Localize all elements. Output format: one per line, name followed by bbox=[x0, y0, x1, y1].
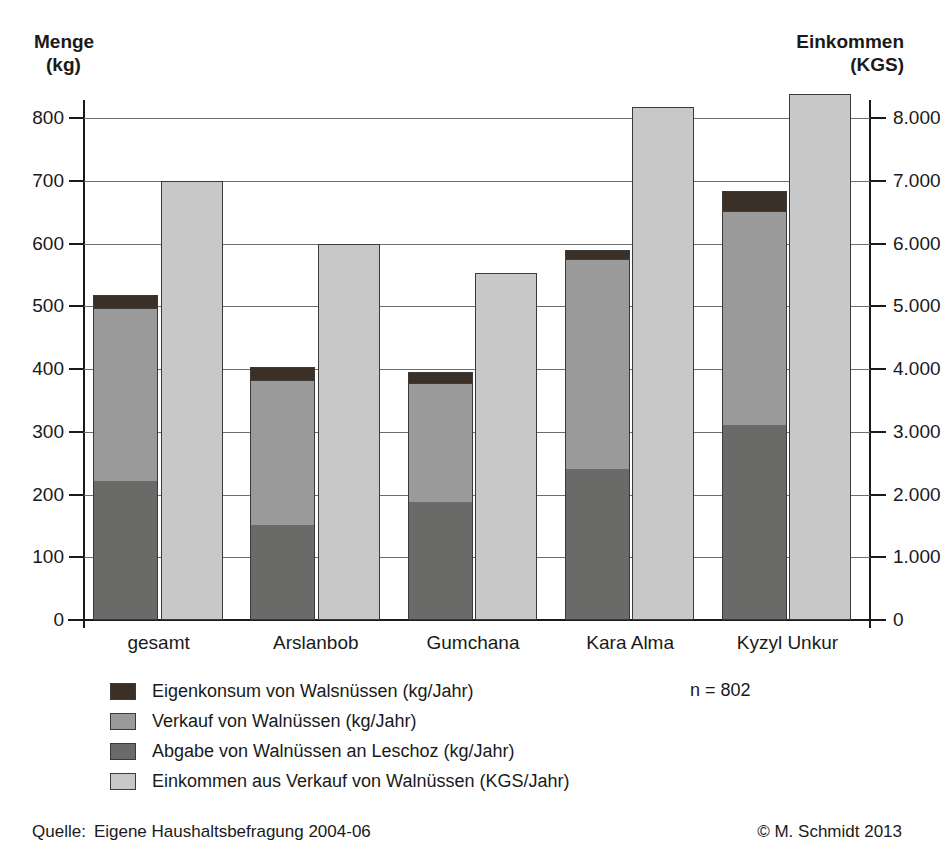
legend-label: Verkauf von Walnüssen (kg/Jahr) bbox=[152, 710, 416, 732]
y-axis-right-tick bbox=[871, 556, 886, 558]
legend-swatch bbox=[110, 713, 136, 730]
y-axis-right-tick-label: 5.000 bbox=[893, 296, 941, 315]
y-axis-right-tick-label: 4.000 bbox=[893, 359, 941, 378]
bar-segment[interactable] bbox=[722, 211, 787, 425]
bar-group bbox=[84, 118, 870, 620]
plot-area bbox=[84, 118, 870, 620]
y-axis-left-tick bbox=[69, 494, 84, 496]
y-axis-right-tick-label: 8.000 bbox=[893, 108, 941, 127]
source-note: Quelle:Eigene Haushaltsbefragung 2004-06 bbox=[32, 822, 371, 842]
y-axis-left-tick-label: 400 bbox=[32, 359, 64, 378]
source-text: Eigene Haushaltsbefragung 2004-06 bbox=[94, 822, 371, 841]
y-axis-right-tick-label: 1.000 bbox=[893, 547, 941, 566]
bar-segment[interactable] bbox=[722, 425, 787, 620]
y-axis-left-tick-label: 500 bbox=[32, 296, 64, 315]
y-axis-left-tick-label: 200 bbox=[32, 485, 64, 504]
y-axis-right-tick bbox=[871, 305, 886, 307]
income-bar[interactable] bbox=[789, 94, 851, 620]
chart-legend: Eigenkonsum von Walsnüssen (kg/Jahr)Verk… bbox=[110, 676, 730, 796]
legend-swatch bbox=[110, 683, 136, 700]
right-axis-title-line2: (KGS) bbox=[796, 53, 904, 76]
y-axis-right-tick bbox=[871, 243, 886, 245]
copyright-note: © M. Schmidt 2013 bbox=[757, 822, 902, 842]
right-axis-title: Einkommen (KGS) bbox=[796, 30, 904, 76]
y-axis-right-tick bbox=[871, 494, 886, 496]
y-axis-left-tick bbox=[69, 180, 84, 182]
left-axis-title: Menge (kg) bbox=[34, 30, 94, 76]
y-axis-left-tick bbox=[69, 368, 84, 370]
y-axis-left-tick bbox=[69, 243, 84, 245]
y-axis-right-tick-label: 3.000 bbox=[893, 422, 941, 441]
legend-label: Eigenkonsum von Walsnüssen (kg/Jahr) bbox=[152, 680, 473, 702]
y-axis-left-tick bbox=[69, 117, 84, 119]
y-axis-left-tick-label: 300 bbox=[32, 422, 64, 441]
y-axis-right-tick bbox=[871, 180, 886, 182]
y-axis-left-tick bbox=[69, 619, 84, 621]
left-axis-title-line1: Menge bbox=[34, 31, 94, 52]
legend-label: Einkommen aus Verkauf von Walnüssen (KGS… bbox=[152, 770, 570, 792]
x-axis-category-label: Kyzyl Unkur bbox=[693, 632, 881, 654]
y-axis-left-tick bbox=[69, 431, 84, 433]
legend-item[interactable]: Verkauf von Walnüssen (kg/Jahr) bbox=[110, 706, 730, 736]
legend-label: Abgabe von Walnüssen an Leschoz (kg/Jahr… bbox=[152, 740, 515, 762]
stacked-bar-menge[interactable] bbox=[723, 191, 785, 620]
bar-segment[interactable] bbox=[722, 191, 787, 210]
y-axis-right-tick bbox=[871, 117, 886, 119]
legend-item[interactable]: Einkommen aus Verkauf von Walnüssen (KGS… bbox=[110, 766, 730, 796]
y-axis-right-tick-label: 2.000 bbox=[893, 485, 941, 504]
y-axis-right-tick-label: 0 bbox=[893, 610, 904, 629]
legend-item[interactable]: Eigenkonsum von Walsnüssen (kg/Jahr) bbox=[110, 676, 730, 706]
right-axis-title-line1: Einkommen bbox=[796, 31, 904, 52]
sample-size-annotation: n = 802 bbox=[690, 679, 751, 701]
y-axis-right-tick bbox=[871, 368, 886, 370]
y-axis-right-tick bbox=[871, 431, 886, 433]
y-axis-left-tick-label: 0 bbox=[53, 610, 64, 629]
y-axis-left-tick-label: 100 bbox=[32, 547, 64, 566]
y-axis-right-tick bbox=[871, 619, 886, 621]
legend-swatch bbox=[110, 773, 136, 790]
left-axis-title-line2: (kg) bbox=[34, 53, 94, 76]
y-axis-left-tick bbox=[69, 305, 84, 307]
legend-swatch bbox=[110, 743, 136, 760]
y-axis-left-tick bbox=[69, 556, 84, 558]
source-label: Quelle: bbox=[32, 822, 86, 841]
legend-item[interactable]: Abgabe von Walnüssen an Leschoz (kg/Jahr… bbox=[110, 736, 730, 766]
y-axis-left-tick-label: 800 bbox=[32, 108, 64, 127]
y-axis-right-tick-label: 7.000 bbox=[893, 171, 941, 190]
y-axis-right-tick-label: 6.000 bbox=[893, 234, 941, 253]
y-axis-left-tick-label: 600 bbox=[32, 234, 64, 253]
y-axis-left-tick-label: 700 bbox=[32, 171, 64, 190]
